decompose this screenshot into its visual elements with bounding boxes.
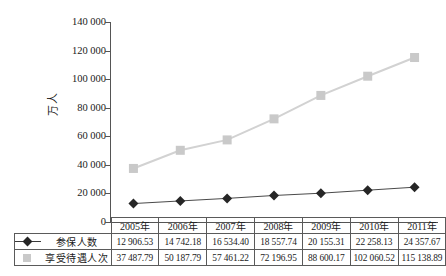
diamond-marker bbox=[128, 199, 138, 209]
table-cell: 20 155.31 bbox=[302, 234, 350, 250]
square-marker bbox=[223, 135, 232, 144]
y-axis-tick bbox=[105, 79, 110, 80]
table-cell: 22 258.13 bbox=[350, 234, 398, 250]
table-cell: 37 487.79 bbox=[111, 250, 159, 266]
y-axis-tick-labels: 140 000120 000100 00080 00060 00040 0002… bbox=[44, 0, 106, 226]
series-line bbox=[133, 58, 414, 169]
y-axis-tick-label: 120 000 bbox=[46, 46, 106, 56]
y-axis-tick-label: 100 000 bbox=[46, 74, 106, 84]
square-marker bbox=[316, 91, 325, 100]
diamond-marker bbox=[175, 196, 185, 206]
diamond-marker-icon bbox=[15, 237, 41, 247]
y-axis-tick bbox=[105, 165, 110, 166]
table-cell: 24 357.67 bbox=[398, 234, 446, 250]
table-column-header: 2006年 bbox=[159, 218, 207, 234]
square-marker-icon bbox=[15, 253, 41, 263]
legend-entry: 参保人数 bbox=[15, 234, 112, 250]
table-column-header: 2011年 bbox=[398, 218, 446, 234]
square-marker bbox=[363, 72, 372, 81]
table-cell: 50 187.79 bbox=[159, 250, 207, 266]
table-cell: 14 742.18 bbox=[159, 234, 207, 250]
square-marker bbox=[176, 146, 185, 155]
table-body: 参保人数12 906.5314 742.1816 534.4018 557.74… bbox=[15, 234, 446, 266]
table-cell: 72 196.95 bbox=[255, 250, 303, 266]
table-column-header: 2007年 bbox=[207, 218, 255, 234]
legend-entry: 享受待遇人次 bbox=[15, 250, 112, 266]
y-axis-tick-label: 80 000 bbox=[46, 103, 106, 113]
diamond-marker bbox=[316, 188, 326, 198]
diamond-marker bbox=[269, 190, 279, 200]
table-cell: 102 060.52 bbox=[350, 250, 398, 266]
diamond-marker bbox=[363, 185, 373, 195]
y-axis-tick-label: 20 000 bbox=[46, 188, 106, 198]
y-axis-tick-label: 40 000 bbox=[46, 160, 106, 170]
table-cell: 18 557.74 bbox=[255, 234, 303, 250]
table-corner-cell bbox=[15, 218, 112, 234]
y-axis-tick-label: 140 000 bbox=[46, 17, 106, 27]
y-axis-tick bbox=[105, 108, 110, 109]
table-column-header: 2010年 bbox=[350, 218, 398, 234]
table-cell: 88 600.17 bbox=[302, 250, 350, 266]
series-svg bbox=[110, 22, 438, 222]
series-name-label: 享受待遇人次 bbox=[45, 250, 111, 265]
data-table: 2005年2006年2007年2008年2009年2010年2011年 参保人数… bbox=[14, 217, 446, 266]
square-marker bbox=[129, 164, 138, 173]
y-axis-tick bbox=[105, 22, 110, 23]
square-marker bbox=[270, 114, 279, 123]
diamond-marker bbox=[410, 182, 420, 192]
table-cell: 115 138.89 bbox=[398, 250, 446, 266]
table-cell: 57 461.22 bbox=[207, 250, 255, 266]
series-name-label: 参保人数 bbox=[45, 234, 111, 249]
table-header-row: 2005年2006年2007年2008年2009年2010年2011年 bbox=[15, 218, 446, 234]
square-marker bbox=[410, 53, 419, 62]
y-axis-tick bbox=[105, 51, 110, 52]
table-row: 参保人数12 906.5314 742.1816 534.4018 557.74… bbox=[15, 234, 446, 250]
table-column-header: 2005年 bbox=[111, 218, 159, 234]
diamond-marker bbox=[222, 193, 232, 203]
y-axis-tick bbox=[105, 136, 110, 137]
plot-area: 万人 140 000120 000100 00080 00060 00040 0… bbox=[0, 0, 440, 226]
table-cell: 16 534.40 bbox=[207, 234, 255, 250]
y-axis-tick bbox=[105, 193, 110, 194]
table-cell: 12 906.53 bbox=[111, 234, 159, 250]
series-container bbox=[110, 22, 438, 222]
table-row: 享受待遇人次37 487.7950 187.7957 461.2272 196.… bbox=[15, 250, 446, 266]
table-column-header: 2008年 bbox=[255, 218, 303, 234]
y-axis-tick-label: 60 000 bbox=[46, 131, 106, 141]
table-column-header: 2009年 bbox=[302, 218, 350, 234]
